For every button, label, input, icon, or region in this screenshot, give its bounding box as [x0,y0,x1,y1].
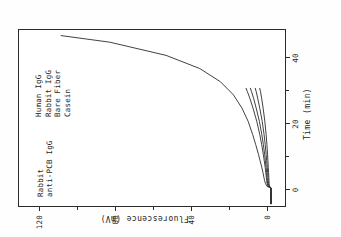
curve-label-human-igg: Human IgG [34,70,44,117]
xtick-10 [286,156,289,157]
x-axis-title: Time (min) [303,54,312,174]
annotation-rabbit-anti-pcb-igg: Rabbit anti-PCB IgG [36,140,54,197]
chart-figure: 0 40 80 120 0 20 40 Fluorescence (mV) Ti… [0,0,341,237]
ytick-120 [39,207,40,211]
ytick-label-120: 120 [35,215,44,237]
annotation-line-2: anti-PCB IgG [45,140,54,197]
xtick-30 [286,90,289,91]
series-line-rabbit-igg [250,88,271,203]
xtick-label-20: 20 [291,113,300,135]
curve-label-rabbit-igg: Rabbit IgG [44,70,54,117]
curve-label-bare-fiber: Bare Fiber [53,70,63,117]
rotated-figure-wrapper: 0 40 80 120 0 20 40 Fluorescence (mV) Ti… [0,0,341,237]
plot-area [18,29,286,207]
series-line-rabbit-anti-pcb-igg [61,36,271,204]
ytick-label-0: 0 [263,215,272,237]
curve-label-stack: Human IgG Rabbit IgG Bare Fiber Casein [34,70,72,117]
annotation-line-1: Rabbit [36,140,45,197]
figure-canvas: 0 40 80 120 0 20 40 Fluorescence (mV) Ti… [0,0,341,237]
ytick-100 [77,207,78,210]
ytick-0 [267,207,268,211]
ytick-60 [153,207,154,210]
ytick-40 [191,207,192,211]
xtick-40 [286,57,290,58]
curve-label-casein: Casein [63,70,73,117]
ytick-20 [229,207,230,210]
xtick-0 [286,189,290,190]
ytick-80 [115,207,116,211]
y-axis-title: Fluorescence (mV) [90,214,200,223]
xtick-20 [286,123,290,124]
xtick-label-40: 40 [291,47,300,69]
xtick-label-0: 0 [291,179,300,201]
